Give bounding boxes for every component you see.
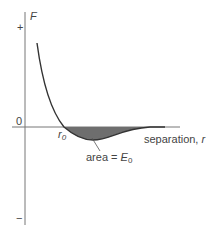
- force-separation-diagram: [0, 0, 218, 232]
- y-axis-label: F: [30, 11, 37, 22]
- force-curve: [37, 43, 165, 140]
- equilibrium-label: r0: [58, 129, 66, 142]
- minus-sign: −: [16, 213, 22, 224]
- plus-sign: +: [17, 22, 23, 33]
- origin-label: 0: [16, 116, 22, 127]
- area-annotation: area = E0: [86, 152, 132, 165]
- x-axis-label: separation, r: [144, 134, 205, 145]
